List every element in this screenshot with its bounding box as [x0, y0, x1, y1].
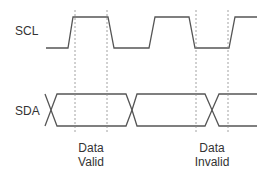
data-invalid-label-line1: Data [199, 141, 225, 155]
scl-label: SCL [15, 24, 39, 38]
timing-diagram: SCL SDA Data Valid Data Invalid [0, 0, 268, 179]
data-valid-label-line1: Data [78, 141, 104, 155]
sda-waveform-bottom-1 [45, 110, 257, 126]
scl-waveform [46, 17, 257, 48]
data-invalid-label-line2: Invalid [195, 155, 230, 169]
sda-label: SDA [15, 104, 40, 118]
data-valid-label-line2: Valid [78, 155, 104, 169]
sda-waveform-top-1 [45, 94, 257, 110]
